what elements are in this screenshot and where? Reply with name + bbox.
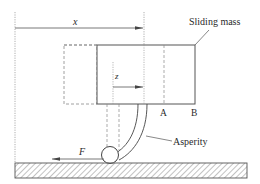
asperity-ball (102, 147, 119, 164)
sliding-mass-label: Sliding mass (189, 16, 241, 27)
point-a-label: A (160, 108, 167, 118)
previous-position-box (64, 45, 97, 104)
sliding-mass-leader (195, 30, 209, 45)
point-b-label: B (191, 108, 197, 118)
ground-surface (15, 163, 247, 178)
diagram-canvas: x z F Sliding mass A B Asperity (0, 0, 260, 184)
asperity-label: Asperity (173, 136, 207, 147)
force-label: F (78, 146, 86, 157)
z-label: z (114, 71, 119, 81)
asperity-leader (146, 136, 172, 141)
x-label: x (72, 16, 78, 27)
sliding-mass-block (97, 45, 195, 104)
